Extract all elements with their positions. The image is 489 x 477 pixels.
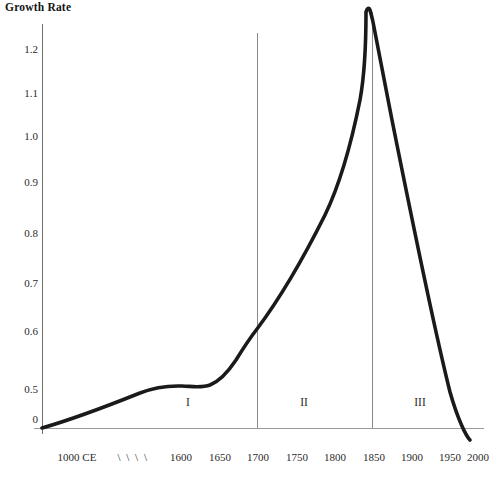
x-axis-break-icon: \ \ \ \ — [118, 452, 149, 463]
x-tick-2000: 2000 — [467, 452, 489, 463]
x-tick-1950: 1950 — [439, 452, 461, 463]
region-label-iii: III — [414, 397, 426, 409]
x-tick-1000ce: 1000 CE — [58, 452, 97, 463]
region-label-ii: II — [300, 397, 308, 409]
x-tick-1600: 1600 — [170, 452, 192, 463]
x-tick-1650: 1650 — [209, 452, 231, 463]
x-tick-1850: 1850 — [363, 452, 385, 463]
x-tick-1800: 1800 — [324, 452, 346, 463]
growth-rate-curve — [42, 8, 470, 440]
x-tick-1900: 1900 — [401, 452, 423, 463]
region-label-i: I — [186, 397, 190, 409]
x-tick-1700: 1700 — [247, 452, 269, 463]
x-tick-1750: 1750 — [286, 452, 308, 463]
